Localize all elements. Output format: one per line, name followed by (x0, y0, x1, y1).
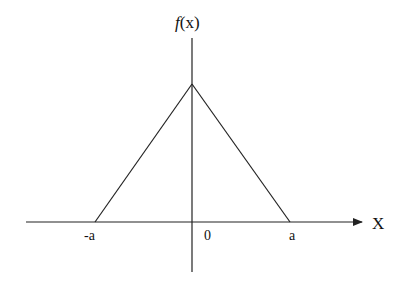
tick-label-pos-a: a (289, 228, 296, 243)
x-axis-label: X (372, 214, 384, 233)
triangle-left-edge (95, 84, 192, 222)
tick-label-neg-a: -a (84, 228, 96, 243)
triangle-right-edge (192, 84, 290, 222)
tick-label-zero: 0 (204, 228, 211, 243)
diagram-canvas: f(x) X -a 0 a (0, 0, 406, 288)
y-axis-label: f(x) (175, 13, 200, 32)
